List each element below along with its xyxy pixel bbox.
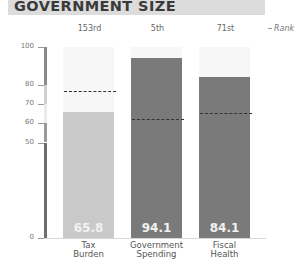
category-label: TaxBurden — [54, 241, 124, 259]
legend-rank: Rank — [268, 24, 294, 33]
category-label-line: Health — [190, 250, 260, 259]
bar-tax-burden[interactable]: 65.8 — [63, 112, 114, 238]
category-label: GovernmentSpending — [122, 241, 192, 259]
y-tick — [38, 85, 44, 86]
bar-value-label: 65.8 — [63, 221, 114, 235]
y-tick-label: 50 — [14, 138, 34, 146]
bar-value-label: 94.1 — [131, 221, 182, 235]
y-tick — [38, 123, 44, 124]
y-tick — [38, 143, 44, 144]
axis-band — [44, 143, 47, 239]
rank-label: 5th — [132, 24, 184, 33]
axis-band — [44, 85, 47, 104]
y-tick — [38, 104, 44, 105]
legend-label: Rank — [274, 24, 294, 33]
bar-government-spending[interactable]: 94.1 — [131, 58, 182, 238]
rank-label: 153rd — [64, 24, 116, 33]
y-tick — [38, 238, 44, 239]
y-tick-label: 70 — [14, 99, 34, 107]
chart-title: GOVERNMENT SIZE — [14, 0, 176, 14]
rank-label: 71st — [200, 24, 252, 33]
y-tick-label: 80 — [14, 80, 34, 88]
reference-line — [132, 119, 184, 120]
axis-band — [44, 47, 47, 85]
category-label: FiscalHealth — [190, 241, 260, 259]
y-tick-label: 60 — [14, 118, 34, 126]
axis-band — [44, 123, 47, 142]
y-tick — [38, 47, 44, 48]
y-tick-label: 0 — [14, 233, 34, 241]
bar-fiscal-health[interactable]: 84.1 — [199, 77, 250, 238]
reference-line — [200, 113, 252, 114]
category-label-line: Spending — [122, 250, 192, 259]
axis-band — [44, 104, 47, 123]
bar-value-label: 84.1 — [199, 221, 250, 235]
reference-line — [64, 91, 116, 92]
x-axis-baseline — [44, 238, 266, 239]
legend-swatch — [268, 28, 272, 29]
y-tick-label: 100 — [14, 42, 34, 50]
category-label-line: Burden — [54, 250, 124, 259]
